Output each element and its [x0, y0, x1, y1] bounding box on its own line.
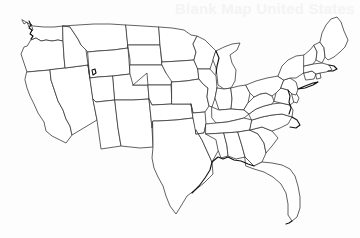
- usa-outline-map-figure: Blank Map United States WashingtonOregon…: [0, 0, 360, 238]
- states-layer: WashingtonOregonCaliforniaNevadaIdahoMon…: [21, 17, 348, 221]
- state-or[interactable]: Oregon: [21, 38, 65, 72]
- long-island-detail: [298, 82, 318, 89]
- state-in[interactable]: Indiana: [215, 88, 232, 110]
- state-nm[interactable]: New Mexico: [115, 99, 153, 148]
- state-sd[interactable]: South Dakota: [128, 45, 162, 65]
- state-nd[interactable]: North Dakota: [126, 25, 160, 48]
- state-fl[interactable]: Florida: [245, 157, 300, 221]
- state-mn[interactable]: Minnesota: [159, 27, 197, 62]
- usa-map-svg: WashingtonOregonCaliforniaNevadaIdahoMon…: [0, 0, 360, 238]
- state-wa[interactable]: Washington: [22, 20, 63, 41]
- florida-keys-detail: [286, 221, 292, 224]
- state-wi[interactable]: Wisconsin: [193, 36, 216, 69]
